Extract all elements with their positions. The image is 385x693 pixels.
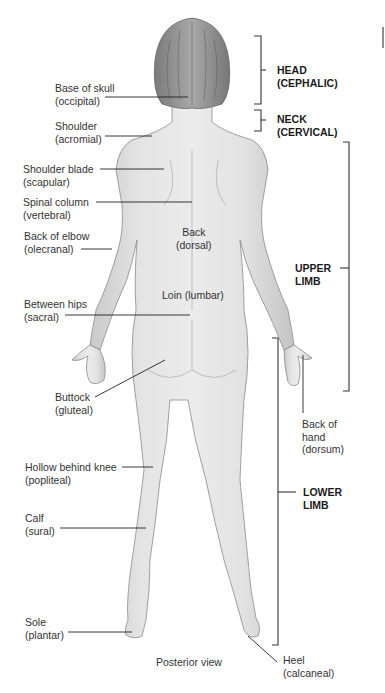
label-buttock: Buttock (gluteal) — [55, 391, 93, 416]
view-caption: Posterior view — [156, 656, 222, 668]
label-back-of-elbow: Back of elbow (olecranal) — [24, 230, 89, 255]
label-hollow-behind-knee: Hollow behind knee (popliteal) — [25, 461, 117, 486]
region-lower-limb: LOWER LIMB — [303, 486, 342, 511]
label-sole: Sole (plantar) — [25, 616, 64, 641]
label-base-of-skull: Base of skull (occipital) — [55, 82, 115, 107]
label-shoulder-blade: Shoulder blade (scapular) — [23, 163, 94, 188]
label-shoulder: Shoulder (acromial) — [55, 120, 102, 145]
label-calf: Calf (sural) — [25, 512, 55, 537]
label-back: Back (dorsal) — [176, 226, 212, 251]
label-loin: Loin (lumbar) — [162, 289, 224, 302]
label-spinal-column: Spinal column (vertebral) — [23, 196, 89, 221]
region-neck: NECK (CERVICAL) — [277, 113, 337, 138]
region-upper-limb: UPPER LIMB — [295, 262, 331, 287]
label-between-hips: Between hips (sacral) — [24, 298, 87, 323]
label-heel: Heel (calcaneal) — [283, 654, 334, 679]
region-head: HEAD (CEPHALIC) — [277, 64, 338, 89]
label-back-of-hand: Back of hand (dorsum) — [302, 418, 344, 456]
